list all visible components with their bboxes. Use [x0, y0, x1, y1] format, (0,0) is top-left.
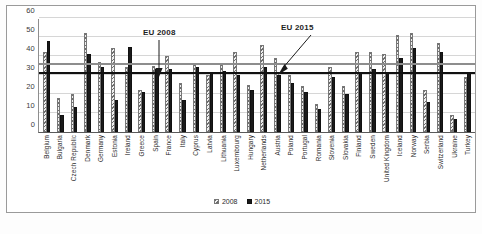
x-axis-label: Latvia	[202, 134, 216, 196]
bar-2015	[454, 119, 457, 132]
x-axis-label-text: Ireland	[124, 135, 131, 155]
bar-2015	[427, 102, 430, 132]
x-axis-label: Poland	[284, 134, 298, 196]
bar-group	[460, 19, 474, 132]
x-axis-label-text: Sweden	[369, 135, 376, 159]
bar-2015	[128, 47, 131, 133]
bar-group	[216, 19, 230, 132]
bar-group	[352, 19, 366, 132]
x-axis-label: Belgium	[39, 134, 53, 196]
bar-group	[366, 19, 380, 132]
x-axis-label-text: Greece	[137, 135, 144, 157]
bar-group	[420, 19, 434, 132]
bar-group	[108, 19, 122, 132]
x-axis-label: Finland	[352, 134, 366, 196]
bar-group	[67, 19, 81, 132]
bar-2015	[264, 67, 267, 132]
bar-2015	[304, 92, 307, 132]
bar-group	[406, 19, 420, 132]
x-axis-label-text: Serbia	[423, 135, 430, 154]
reference-line-eu-2015	[39, 63, 475, 65]
bar-2015	[155, 69, 158, 132]
x-axis-label: Ukraine	[447, 134, 461, 196]
x-axis-label: Sweden	[365, 134, 379, 196]
bar-group	[379, 19, 393, 132]
bar-2015	[169, 69, 172, 132]
x-axis-label-text: Estonia	[110, 135, 117, 157]
x-axis-label: Portugal	[297, 134, 311, 196]
bar-group	[121, 19, 135, 132]
bar-2015	[399, 58, 402, 132]
legend-item-2008[interactable]: 2008	[214, 198, 238, 205]
x-axis-label: Turkey	[460, 134, 474, 196]
bar-group	[54, 19, 68, 132]
bar-group	[433, 19, 447, 132]
x-axis-label-text: France	[165, 135, 172, 156]
bar-2015	[74, 107, 77, 132]
legend-swatch-2008	[214, 199, 219, 204]
chart-legend: 20082015	[7, 198, 477, 205]
bar-2015	[332, 77, 335, 132]
x-axis-label-text: Cyprus	[192, 135, 199, 156]
x-axis-label: Czech Republic	[66, 134, 80, 196]
bar-2015	[101, 67, 104, 132]
x-axis-label: Greece	[134, 134, 148, 196]
chart-frame: 0102030405060 EU 2008 EU 2015 BelgiumBul…	[6, 5, 476, 213]
bar-group	[447, 19, 461, 132]
x-axis-label-text: Iceland	[396, 135, 403, 156]
bar-2015	[210, 73, 213, 132]
bar-2015	[372, 69, 375, 132]
bar-2015	[60, 115, 63, 132]
x-axis-label-text: Portugal	[301, 135, 308, 160]
x-axis-label: Denmark	[80, 134, 94, 196]
x-axis-label: Germany	[93, 134, 107, 196]
x-axis-label: Slovakia	[338, 134, 352, 196]
bar-group	[257, 19, 271, 132]
bar-2015	[467, 73, 470, 132]
legend-label-2008: 2008	[222, 198, 238, 205]
x-axis-label-text: Hungary	[246, 135, 253, 160]
chart-figure: 0102030405060 EU 2008 EU 2015 BelgiumBul…	[0, 0, 482, 234]
legend-item-2015[interactable]: 2015	[247, 198, 271, 205]
bar-group	[176, 19, 190, 132]
x-axis-label: Netherlands	[257, 134, 271, 196]
x-axis-labels: BelgiumBulgariaCzech RepublicDenmarkGerm…	[38, 134, 475, 196]
x-axis-label-text: Switzerland	[437, 135, 444, 169]
annotation-arrow-eu-2015	[275, 35, 321, 79]
bar-group	[325, 19, 339, 132]
x-axis-label-text: Slovenia	[328, 135, 335, 160]
x-axis-label: Luxembourg	[229, 134, 243, 196]
x-axis-label: Lithuania	[216, 134, 230, 196]
x-axis-label: France	[161, 134, 175, 196]
bar-2015	[87, 54, 90, 132]
bar-2015	[291, 83, 294, 132]
y-axis-tick-label: 60	[26, 5, 35, 14]
bar-2015	[277, 75, 280, 132]
bar-2015	[182, 100, 185, 132]
x-axis-label-text: Spain	[151, 135, 158, 152]
plot-area: 0102030405060	[38, 19, 475, 133]
bar-2015	[142, 92, 145, 132]
bar-2015	[237, 75, 240, 132]
x-axis-label-text: Turkey	[464, 135, 471, 155]
annotation-arrow-eu-2008	[153, 40, 177, 78]
bar-2015	[115, 100, 118, 132]
bar-group	[243, 19, 257, 132]
bar-2015	[318, 109, 321, 132]
x-axis-label-text: Belgium	[42, 135, 49, 159]
x-axis-label-text: United Kingdom	[382, 135, 389, 182]
x-axis-label: Spain	[148, 134, 162, 196]
bar-2015	[359, 73, 362, 132]
bar-group	[230, 19, 244, 132]
annotation-eu-2008: EU 2008	[143, 28, 176, 37]
bar-group	[393, 19, 407, 132]
bar-2015	[345, 94, 348, 132]
bar-series-container	[39, 19, 475, 132]
x-axis-label: Iceland	[392, 134, 406, 196]
x-axis-label-text: Czech Republic	[69, 135, 76, 181]
x-axis-label-text: Lithuania	[219, 135, 226, 162]
x-axis-label: Serbia	[420, 134, 434, 196]
x-axis-label: Cyprus	[189, 134, 203, 196]
y-axis-tick-label: 40	[26, 43, 35, 52]
x-axis-label: Italy	[175, 134, 189, 196]
